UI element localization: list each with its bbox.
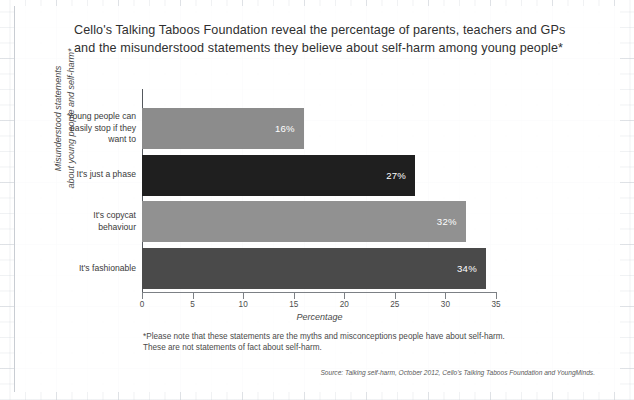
x-tick-20: [344, 293, 345, 299]
bar-chart-figure: Cello's Talking Taboos Foundation reveal…: [15, 6, 620, 392]
category-label-column: Young people caneasily stop if theywant …: [32, 105, 136, 292]
category-label-1: Young people caneasily stop if theywant …: [32, 111, 136, 145]
footnote-line-2: These are not statements of fact about s…: [143, 342, 573, 353]
bar-1: 16%: [142, 108, 304, 149]
bar-value-label-4: 34%: [457, 263, 486, 274]
x-tick-30: [445, 293, 446, 299]
chart-title-line-1: Cello's Talking Taboos Foundation reveal…: [74, 22, 594, 40]
x-tick-label-25: 25: [390, 300, 399, 309]
x-axis-line: [142, 292, 497, 293]
bar-4: 34%: [142, 248, 486, 289]
x-tick-label-5: 5: [190, 300, 195, 309]
x-tick-5: [193, 293, 194, 299]
x-tick-label-10: 10: [239, 300, 248, 309]
chart-card: Cello's Talking Taboos Foundation reveal…: [14, 6, 620, 392]
x-tick-label-35: 35: [491, 300, 500, 309]
bar-value-label-3: 32%: [437, 216, 466, 227]
chart-title: Cello's Talking Taboos Foundation reveal…: [74, 22, 594, 57]
x-tick-label-15: 15: [289, 300, 298, 309]
category-label-2: It's just a phase: [32, 169, 136, 180]
x-axis-title: Percentage: [142, 312, 497, 322]
footnote: *Please note that these statements are t…: [143, 331, 573, 353]
x-tick-35: [496, 293, 497, 299]
bar-value-label-2: 27%: [386, 170, 415, 181]
bar-2: 27%: [142, 155, 415, 196]
bar-value-label-1: 16%: [275, 123, 304, 134]
x-tick-label-30: 30: [441, 300, 450, 309]
x-tick-label-0: 0: [140, 300, 145, 309]
x-tick-15: [294, 293, 295, 299]
plot-area: 16%27%32%34%: [142, 105, 496, 292]
category-label-4: It's fashionable: [32, 263, 136, 274]
source-note: Source: Talking self-harm, October 2012,…: [143, 369, 595, 376]
x-tick-label-20: 20: [340, 300, 349, 309]
chart-title-line-2: and the misunderstood statements they be…: [74, 40, 594, 58]
bar-3: 32%: [142, 201, 466, 242]
x-tick-10: [243, 293, 244, 299]
x-tick-0: [142, 293, 143, 299]
footnote-line-1: *Please note that these statements are t…: [143, 331, 573, 342]
x-tick-25: [395, 293, 396, 299]
category-label-3: It's copycatbehaviour: [32, 210, 136, 233]
